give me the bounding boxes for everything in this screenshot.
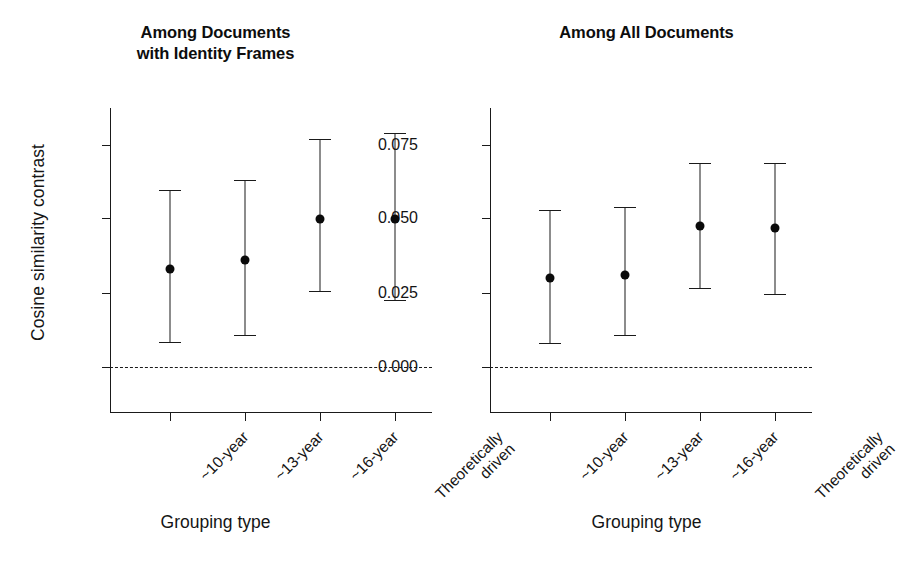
- data-point-marker: [391, 215, 400, 224]
- x-tick-0-left: [170, 412, 171, 421]
- panel-right-title: Among All Documents: [431, 22, 862, 43]
- x-category-label-text: ~13-year: [651, 428, 707, 484]
- errorbar-cap-lower: [159, 342, 181, 343]
- plot-area-right: ~10-year ~13-year ~16-year Theoretically…: [490, 108, 812, 412]
- data-point-marker: [621, 271, 630, 280]
- x-tick-2-left: [320, 412, 321, 421]
- x-category-label-13-year: ~13-year: [651, 428, 707, 484]
- errorbar-cap-lower: [234, 335, 256, 336]
- errorbar-cap-lower: [689, 288, 711, 289]
- data-point-marker: [771, 224, 780, 233]
- zero-reference-line-left: [110, 367, 432, 368]
- panel-among-all-documents: Among All Documents: [431, 0, 862, 581]
- x-category-label-text: ~13-year: [271, 428, 327, 484]
- errorbar-cap-lower: [614, 335, 636, 336]
- data-point-marker: [166, 265, 175, 274]
- zero-reference-line-right: [490, 367, 812, 368]
- x-category-label-16-year: ~16-year: [346, 428, 402, 484]
- data-point-marker: [696, 222, 705, 231]
- x-tick-2-right: [700, 412, 701, 421]
- x-tick-0-right: [550, 412, 551, 421]
- x-category-label-text: ~16-year: [346, 428, 402, 484]
- errorbar-cap-lower: [384, 300, 406, 301]
- data-point-marker: [241, 256, 250, 265]
- x-category-label-13-year: ~13-year: [271, 428, 327, 484]
- y-tick-0075-left: [102, 145, 110, 146]
- x-axis-line-right: [490, 412, 812, 413]
- errorbar-cap-lower: [764, 294, 786, 295]
- y-tick-0025-left: [102, 293, 110, 294]
- y-tick-0025-right: [482, 293, 490, 294]
- x-axis-line-left: [110, 412, 432, 413]
- x-category-label-text: ~10-year: [576, 428, 632, 484]
- x-category-label-10-year: ~10-year: [196, 428, 252, 484]
- x-category-label-10-year: ~10-year: [576, 428, 632, 484]
- x-axis-label-left: Grouping type: [0, 512, 431, 533]
- x-tick-1-left: [245, 412, 246, 421]
- y-tick-0050-right: [482, 218, 490, 219]
- x-tick-1-right: [625, 412, 626, 421]
- y-ticklabel-0025: 0.025: [378, 285, 418, 301]
- panel-left-title: Among Documents with Identity Frames: [0, 22, 431, 64]
- x-category-label-16-year: ~16-year: [726, 428, 782, 484]
- data-point-marker: [546, 274, 555, 283]
- x-tick-3-left: [395, 412, 396, 421]
- y-tick-0050-left: [102, 218, 110, 219]
- y-tick-0075-right: [482, 145, 490, 146]
- panel-among-documents-with-identity-frames: Among Documents with Identity Frames 0.0…: [0, 0, 431, 581]
- x-category-label-text: ~10-year: [196, 428, 252, 484]
- x-category-label-text: ~16-year: [726, 428, 782, 484]
- plot-area-left: 0.075 0.050 0.025 0.000: [110, 108, 432, 412]
- errorbar-cap-lower: [309, 291, 331, 292]
- panel-left-title-line1: Among Documents: [0, 22, 431, 43]
- y-tick-0000-right: [482, 367, 490, 368]
- x-tick-3-right: [775, 412, 776, 421]
- data-point-marker: [316, 215, 325, 224]
- errorbar-cap-lower: [539, 343, 561, 344]
- y-tick-0000-left: [102, 367, 110, 368]
- x-axis-label-right: Grouping type: [431, 512, 862, 533]
- panel-left-title-line2: with Identity Frames: [0, 43, 431, 64]
- x-category-label-theoretically-driven: Theoretically driven: [812, 428, 898, 515]
- panel-right-title-line1: Among All Documents: [431, 22, 862, 43]
- y-ticklabel-0075: 0.075: [378, 137, 418, 153]
